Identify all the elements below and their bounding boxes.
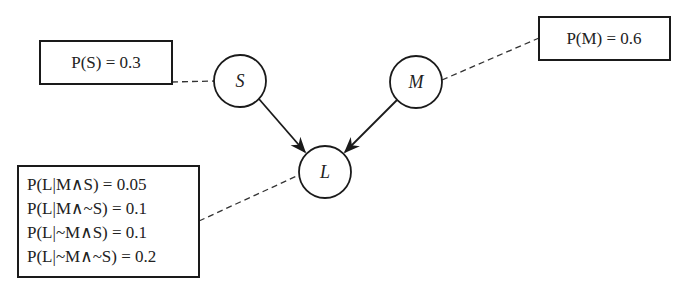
cpt-row-3: P(L|~M∧S) = 0.1 — [27, 223, 147, 242]
prob-box-s: P(S) = 0.3 — [40, 41, 172, 84]
node-l-label: L — [319, 162, 330, 182]
bayes-net-diagram: S M L P(S) = 0.3 P(M) = 0.6 P(L|M∧S) = 0… — [0, 0, 685, 298]
cpt-box-l: P(L|M∧S) = 0.05 P(L|M∧~S) = 0.1 P(L|~M∧S… — [18, 166, 199, 277]
node-m: M — [390, 56, 442, 108]
node-l: L — [299, 146, 351, 198]
dashed-connector-s — [172, 81, 214, 82]
prob-s-text: P(S) = 0.3 — [71, 53, 141, 72]
dashed-connector-m — [442, 38, 539, 80]
dashed-connector-l — [199, 175, 299, 221]
node-s-label: S — [236, 71, 245, 91]
prob-m-text: P(M) = 0.6 — [566, 29, 641, 48]
node-m-label: M — [408, 72, 425, 92]
cpt-row-2: P(L|M∧~S) = 0.1 — [27, 199, 147, 218]
edge-m-to-l — [345, 100, 397, 152]
edge-s-to-l — [259, 99, 305, 152]
cpt-row-4: P(L|~M∧~S) = 0.2 — [27, 247, 156, 266]
node-s: S — [214, 55, 266, 107]
prob-box-m: P(M) = 0.6 — [539, 17, 670, 60]
cpt-row-1: P(L|M∧S) = 0.05 — [27, 175, 146, 194]
